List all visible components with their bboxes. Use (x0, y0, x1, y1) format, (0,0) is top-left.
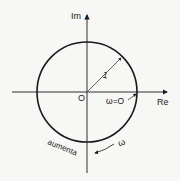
start-point-arrow (128, 94, 136, 100)
x-axis-label: Re (157, 97, 169, 107)
nyquist-unit-circle-diagram: Im Re O 1 ω=O aumenta ω (0, 0, 180, 181)
omega-label: ω (116, 137, 126, 149)
start-point-label: ω=O (106, 96, 125, 106)
y-axis-label: Im (71, 11, 81, 21)
direction-arrow (95, 144, 114, 153)
radius-label: 1 (102, 70, 109, 81)
diagram-svg: Im Re O 1 ω=O aumenta ω (0, 0, 180, 181)
origin-label: O (78, 93, 85, 103)
